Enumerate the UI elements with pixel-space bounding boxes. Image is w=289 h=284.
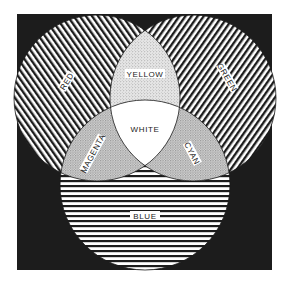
svg-text:YELLOW: YELLOW (127, 70, 164, 79)
svg-text:WHITE: WHITE (131, 125, 160, 134)
venn-diagram: RED GREEN BLUE YELLOW MAGENTA CYAN WHITE (0, 0, 289, 284)
label-white: WHITE (131, 125, 160, 134)
label-blue: BLUE (130, 211, 160, 221)
label-yellow: YELLOW (125, 69, 165, 79)
svg-text:BLUE: BLUE (133, 212, 156, 221)
